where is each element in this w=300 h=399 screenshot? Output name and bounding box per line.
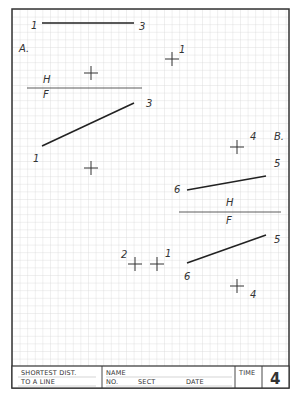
problem-b-label: B. [274, 131, 284, 142]
label-1-top: 1 [31, 20, 37, 31]
sect-label: SECT [138, 378, 156, 386]
worksheet: SHORTEST DIST. TO A LINE NAME NO. SECT D… [0, 0, 300, 399]
label-2-front: 2 [121, 249, 127, 260]
label-1-front: 1 [33, 153, 39, 164]
time-label: TIME [238, 369, 255, 377]
date-label: DATE [186, 378, 204, 386]
problem-title-line2: TO A LINE [20, 378, 55, 386]
name-label: NAME [106, 369, 126, 377]
label-5-top: 5 [274, 158, 280, 169]
no-label: NO. [106, 378, 118, 386]
label-1-front-b: 1 [165, 248, 171, 259]
label-6-top: 6 [174, 184, 180, 195]
fold-label-h-a: H [43, 74, 51, 85]
label-4-front: 4 [250, 289, 256, 300]
label-point-1: 1 [179, 44, 185, 55]
label-4-top: 4 [250, 131, 256, 142]
sheet-number: 4 [270, 370, 280, 388]
label-5-front: 5 [274, 234, 280, 245]
label-3-top: 3 [139, 21, 145, 32]
label-6-front: 6 [184, 271, 190, 282]
title-block: SHORTEST DIST. TO A LINE NAME NO. SECT D… [12, 366, 289, 388]
problem-a-label: A. [18, 43, 29, 54]
grid-area [12, 9, 289, 366]
problem-title-line1: SHORTEST DIST. [21, 369, 77, 377]
fold-label-f-a: F [43, 89, 49, 100]
fold-label-h-b: H [226, 197, 234, 208]
fold-label-f-b: F [226, 215, 232, 226]
label-3-front: 3 [146, 98, 152, 109]
